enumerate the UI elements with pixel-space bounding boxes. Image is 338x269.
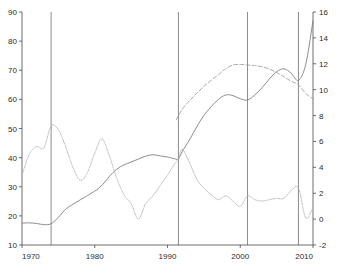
right-tick-label-10: 10 xyxy=(319,86,328,95)
x-tick-label-2010: 2010 xyxy=(295,252,313,261)
left-tick-label-80: 80 xyxy=(8,37,17,46)
right-tick-label-14: 14 xyxy=(319,34,328,43)
right-tick-label--2: -2 xyxy=(319,241,327,250)
left-tick-label-70: 70 xyxy=(8,66,17,75)
right-tick-label-6: 6 xyxy=(319,137,324,146)
chart-background xyxy=(0,0,338,269)
left-tick-label-10: 10 xyxy=(8,241,17,250)
x-tick-label-1970: 1970 xyxy=(22,252,40,261)
left-tick-label-30: 30 xyxy=(8,183,17,192)
left-tick-label-60: 60 xyxy=(8,95,17,104)
x-tick-label-2000: 2000 xyxy=(231,252,249,261)
right-tick-label-8: 8 xyxy=(319,112,324,121)
right-tick-label-16: 16 xyxy=(319,8,328,17)
right-tick-label-2: 2 xyxy=(319,189,324,198)
x-tick-label-1990: 1990 xyxy=(159,252,177,261)
left-tick-label-40: 40 xyxy=(8,154,17,163)
right-tick-label-0: 0 xyxy=(319,215,324,224)
right-tick-label-4: 4 xyxy=(319,163,324,172)
left-tick-label-90: 90 xyxy=(8,8,17,17)
right-tick-label-12: 12 xyxy=(319,60,328,69)
left-tick-label-50: 50 xyxy=(8,125,17,134)
chart-container: 102030405060708090-202468101214161970198… xyxy=(0,0,338,269)
left-tick-label-20: 20 xyxy=(8,212,17,221)
line-chart: 102030405060708090-202468101214161970198… xyxy=(0,0,338,269)
x-tick-label-1980: 1980 xyxy=(86,252,104,261)
